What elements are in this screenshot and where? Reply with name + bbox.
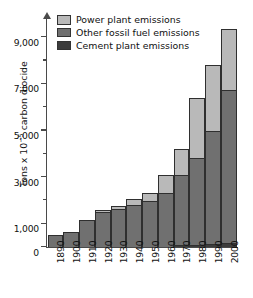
bar-1890 xyxy=(48,18,64,247)
x-tick-1940: 1940 xyxy=(126,250,142,292)
y-tick-3000 xyxy=(41,176,47,177)
x-tick-1990: 1990 xyxy=(205,250,221,292)
y-tick-0 xyxy=(41,246,47,247)
bar-1990 xyxy=(205,18,221,247)
x-tick-2000: 2000 xyxy=(221,250,237,292)
y-tick-label-1000: 1,000 xyxy=(0,217,39,236)
x-tick-1970: 1970 xyxy=(174,250,190,292)
y-tick-9000 xyxy=(41,36,47,37)
legend-swatch-cement-plant-icon xyxy=(57,41,71,51)
x-tick-1900: 1900 xyxy=(63,250,79,292)
bar-1930 xyxy=(111,18,127,247)
bar-1920 xyxy=(95,18,111,247)
bar-segment-2000-other xyxy=(221,90,237,242)
x-tick-label-text: 2000 xyxy=(229,241,240,264)
bar-segment-1950-power xyxy=(142,193,158,201)
legend-label-cement-plant: Cement plant emissions xyxy=(76,41,189,50)
y-tick-7000 xyxy=(41,83,47,84)
bar-1940 xyxy=(126,18,142,247)
x-tick-1980: 1980 xyxy=(189,250,205,292)
y-tick-label-text: 0 xyxy=(33,247,39,258)
bar-segment-2000-power xyxy=(221,29,237,91)
legend-swatch-other-fossil-fuel-icon xyxy=(57,28,71,38)
bar-segment-1980-power xyxy=(189,98,205,157)
legend-label-other-fossil-fuel: Other fossil fuel emissions xyxy=(76,28,200,37)
bar-segment-1960-other xyxy=(158,193,174,247)
x-tick-1920: 1920 xyxy=(95,250,111,292)
legend-swatch-power-plant-icon xyxy=(57,15,71,25)
y-tick-label-text: 5,000 xyxy=(14,130,39,141)
legend-label-power-plant: Power plant emissions xyxy=(76,15,181,24)
bar-segment-1970-other xyxy=(174,175,190,245)
x-axis-tick-labels: 1890190019101920193019401950196019701980… xyxy=(48,250,237,292)
y-tick-label-text: 3,000 xyxy=(14,177,39,188)
bar-1950 xyxy=(142,18,158,247)
y-minor-tick-6000 xyxy=(43,106,48,107)
x-tick-1930: 1930 xyxy=(111,250,127,292)
y-tick-label-9000: 9,000 xyxy=(0,31,39,50)
bar-1980 xyxy=(189,18,205,247)
y-tick-label-0: 0 xyxy=(0,241,39,260)
y-tick-1000 xyxy=(41,223,47,224)
bar-segment-1960-power xyxy=(158,175,174,192)
y-minor-tick-2000 xyxy=(43,199,48,200)
bar-segment-1980-other xyxy=(189,158,205,245)
y-tick-label-5000: 5,000 xyxy=(0,124,39,143)
legend-item-cement-plant: Cement plant emissions xyxy=(57,41,200,51)
bar-1900 xyxy=(63,18,79,247)
y-minor-tick-4000 xyxy=(43,153,48,154)
x-tick-1950: 1950 xyxy=(142,250,158,292)
x-tick-1960: 1960 xyxy=(158,250,174,292)
bar-segment-1990-power xyxy=(205,65,221,131)
legend-item-other-fossil-fuel: Other fossil fuel emissions xyxy=(57,28,200,38)
y-tick-label-text: 1,000 xyxy=(14,223,39,234)
legend-item-power-plant: Power plant emissions xyxy=(57,15,200,25)
y-tick-label-7000: 7,000 xyxy=(0,77,39,96)
y-tick-label-3000: 3,000 xyxy=(0,171,39,190)
bar-segment-1990-other xyxy=(205,131,221,244)
y-axis-title-suffix: carbon diocide xyxy=(18,61,29,133)
bar-series-group xyxy=(48,18,237,247)
x-tick-1890: 1890 xyxy=(48,250,64,292)
x-tick-1910: 1910 xyxy=(79,250,95,292)
chart-legend: Power plant emissions Other fossil fuel … xyxy=(57,15,200,50)
bar-2000 xyxy=(221,18,237,247)
bar-1970 xyxy=(174,18,190,247)
y-minor-tick-8000 xyxy=(43,59,48,60)
y-tick-label-text: 9,000 xyxy=(14,37,39,48)
bar-segment-1970-power xyxy=(174,149,190,176)
y-tick-label-text: 7,000 xyxy=(14,83,39,94)
bar-1960 xyxy=(158,18,174,247)
y-tick-5000 xyxy=(41,129,47,130)
bar-1910 xyxy=(79,18,95,247)
emissions-stacked-bar-chart: Tons x 10−5 carbon diocide 01,0003,0005,… xyxy=(0,0,253,298)
